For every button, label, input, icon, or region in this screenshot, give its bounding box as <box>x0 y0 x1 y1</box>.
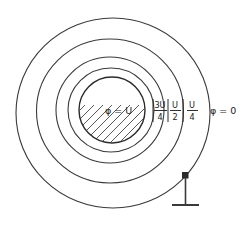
outer-potential-label: φ = 0 <box>210 105 236 116</box>
label-u-over-4-numerator: U <box>189 100 195 110</box>
ground-symbol <box>172 172 199 205</box>
label-u-over-2-denominator: 2 <box>172 112 177 122</box>
equipotential-diagram: φ = U 3U 4 U 2 U 4 φ = 0 <box>0 0 246 225</box>
label-u-over-2-numerator: U <box>172 100 178 110</box>
core-potential-label: φ = U <box>105 105 132 116</box>
ground-connection-node <box>182 172 189 179</box>
conductor-core <box>67 77 152 161</box>
label-u-over-4-denominator: 4 <box>189 112 194 122</box>
diagram-canvas: φ = U 3U 4 U 2 U 4 φ = 0 <box>0 0 246 225</box>
label-3u-over-4: 3U 4 <box>154 100 167 122</box>
label-3u-over-4-numerator: 3U <box>154 100 165 110</box>
label-3u-over-4-denominator: 4 <box>157 112 162 122</box>
label-u-over-2: U 2 <box>170 100 181 122</box>
label-u-over-4: U 4 <box>187 100 198 122</box>
